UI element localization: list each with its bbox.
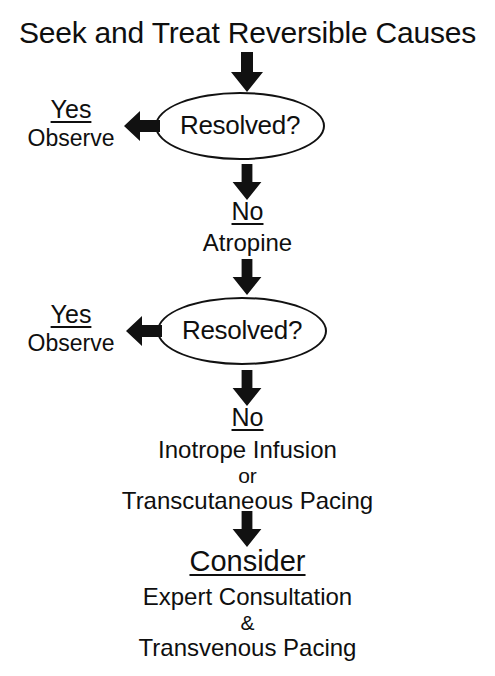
step-line-label: & [0,611,495,635]
decision-node-resolved-2: Resolved? [157,297,327,365]
branch-yes-observe-2: Yes Observe [6,302,136,356]
branch-key-label: Yes [6,97,136,122]
flowchart-title: Seek and Treat Reversible Causes [0,16,495,50]
arrow-down-icon [229,164,265,200]
arrow-down-icon [229,259,265,295]
decision-node-label: Resolved? [180,110,300,141]
arrow-down-icon [229,370,265,406]
step-line-label: or [0,464,495,488]
step-line-label: Transvenous Pacing [0,635,495,662]
branch-key-label: Yes [6,302,136,327]
branch-yes-observe-1: Yes Observe [6,97,136,151]
step-no-inotrope-pacing: No Inotrope Infusion or Transcutaneous P… [0,404,495,515]
step-line-label: Inotrope Infusion [0,437,495,464]
step-key-label: No [0,404,495,430]
step-key-label: Consider [0,546,495,576]
branch-action-label: Observe [6,330,136,356]
decision-node-resolved-1: Resolved? [155,92,325,160]
branch-action-label: Observe [6,125,136,151]
decision-node-label: Resolved? [182,315,302,346]
step-consider-expert-transvenous: Consider Expert Consultation & Transveno… [0,546,495,662]
arrow-down-icon [229,511,265,547]
arrow-down-icon [227,52,267,92]
bradycardia-algorithm-flowchart: Seek and Treat Reversible Causes Resolve… [0,0,495,676]
step-line-label: Expert Consultation [0,584,495,611]
step-key-label: No [0,198,495,224]
step-no-atropine: No Atropine [0,198,495,257]
step-line-label: Atropine [0,230,495,257]
